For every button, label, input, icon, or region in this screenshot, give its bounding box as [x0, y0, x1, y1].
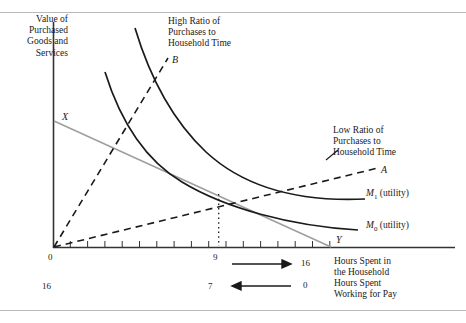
curve-m0-suffix: (utility)	[377, 220, 408, 230]
x-axis-ticks	[70, 241, 330, 247]
x-tick-label-top-mid: 9	[213, 252, 218, 262]
x-tick-label-bottom-mid: 7	[208, 281, 213, 291]
point-b-label: B	[172, 54, 178, 66]
ray-b-dashed	[54, 58, 168, 247]
point-a-label: A	[381, 164, 387, 176]
curve-m1-letter: M	[366, 188, 374, 198]
figure-container: Value of Purchased Goods and Services Hi…	[0, 0, 466, 323]
annotation-low-ratio: Low Ratio of Purchases to Household Time	[333, 125, 396, 159]
point-y-label: Y	[336, 234, 342, 246]
legend-pay-value: 0	[303, 280, 308, 290]
curve-m0	[105, 72, 358, 230]
legend-household-value: 16	[301, 258, 310, 268]
x-tick-label-bottom-origin: 16	[42, 281, 51, 291]
curve-m0-label: M0 (utility)	[366, 220, 409, 233]
legend-pay-text: Hours Spent Working for Pay	[334, 278, 397, 300]
chart-canvas	[0, 0, 466, 323]
legend-household-text: Hours Spent in the Household	[334, 256, 391, 278]
arrow-right-icon	[232, 260, 291, 268]
curve-m1-suffix: (utility)	[377, 188, 408, 198]
budget-line	[54, 121, 331, 247]
curve-m1-label: M1 (utility)	[366, 188, 409, 201]
point-x-label: X	[62, 111, 68, 123]
curve-m0-letter: M	[366, 220, 374, 230]
y-axis-label: Value of Purchased Goods and Services	[6, 14, 68, 59]
annotation-high-ratio: High Ratio of Purchases to Household Tim…	[168, 16, 231, 50]
x-tick-label-top-origin: 0	[48, 252, 53, 262]
ray-a-dashed	[54, 168, 378, 247]
arrow-left-icon	[232, 282, 291, 290]
